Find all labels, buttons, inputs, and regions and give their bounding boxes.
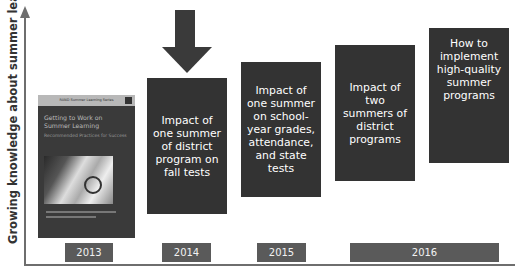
- stage-box-2016-two-summers: Impact of two summers of district progra…: [335, 45, 415, 181]
- magnifying-glass-icon: [84, 176, 102, 194]
- book-cover-photo: [44, 156, 113, 204]
- down-arrow-icon: [162, 47, 212, 73]
- stage-text: Impact of one summer of district program…: [151, 114, 223, 179]
- book-cover-2013: RAND Summer Learning Series Getting to W…: [38, 95, 135, 238]
- year-label-2015: 2015: [257, 243, 306, 262]
- book-authors-line: [46, 211, 116, 213]
- year-label-2014: 2014: [162, 243, 211, 262]
- book-series-text: RAND Summer Learning Series: [59, 98, 113, 102]
- stage-box-2014: Impact of one summer of district program…: [147, 78, 227, 214]
- y-axis-line: [24, 14, 26, 266]
- book-subtitle: Recommended Practices for Success: [44, 133, 129, 139]
- book-title: Getting to Work on Summer Learning: [44, 114, 129, 130]
- x-axis-line: [24, 264, 515, 266]
- stage-text: Impact of two summers of district progra…: [339, 81, 411, 146]
- rand-logo-icon: [125, 97, 132, 104]
- book-authors-line: [46, 216, 96, 218]
- year-label-2016: 2016: [350, 243, 499, 262]
- down-arrow-shaft: [175, 10, 195, 48]
- stage-text: Impact of one summer on school-year grad…: [245, 84, 317, 175]
- stage-text: How to implement high-quality summer pro…: [433, 37, 505, 102]
- year-label-2013: 2013: [65, 243, 113, 262]
- y-axis-label: Growing knowledge about summer learning: [5, 24, 21, 244]
- book-series-band: RAND Summer Learning Series: [38, 95, 135, 106]
- stage-box-2015: Impact of one summer on school-year grad…: [241, 62, 321, 197]
- stage-box-2016-implementation: How to implement high-quality summer pro…: [429, 28, 509, 163]
